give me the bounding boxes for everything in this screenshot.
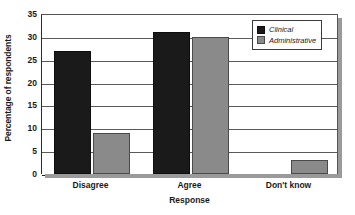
y-axis-tick-label: 20 (28, 78, 37, 88)
plot-frame-shadow-right (338, 18, 342, 178)
y-axis-tick-label: 5 (32, 146, 37, 156)
y-axis-tick-label: 15 (28, 100, 37, 110)
legend-swatch-icon (257, 36, 265, 44)
chart-legend: ClinicalAdministrative (252, 20, 322, 50)
bar (192, 37, 229, 174)
bar-chart-figure: Percentage of respondents 05101520253035… (0, 0, 355, 215)
y-axis-tick-label: 35 (28, 9, 37, 19)
x-axis-tick-label: Don't know (266, 180, 311, 190)
plot-frame-shadow-bottom (45, 174, 342, 178)
x-axis-tick-label: Disagree (73, 180, 109, 190)
bar (153, 32, 190, 174)
y-axis-tick-label: 0 (32, 169, 37, 179)
y-axis-title-text: Percentage of respondents (3, 34, 13, 141)
x-axis-title: Response (41, 195, 338, 205)
legend-item: Clinical (257, 25, 316, 35)
x-axis-tick-labels: DisagreeAgreeDon't know (41, 180, 338, 194)
y-axis-tick-label: 25 (28, 55, 37, 65)
legend-item-label: Clinical (269, 25, 293, 34)
legend-item: Administrative (257, 35, 316, 45)
y-axis-tick-label: 10 (28, 123, 37, 133)
bar (291, 160, 328, 174)
bar (54, 51, 91, 174)
bar (93, 133, 130, 174)
y-axis-tick-label: 30 (28, 32, 37, 42)
y-axis-title: Percentage of respondents (0, 0, 16, 175)
legend-swatch-icon (257, 26, 265, 34)
x-axis-tick-label: Agree (177, 180, 201, 190)
legend-item-label: Administrative (269, 36, 316, 45)
y-axis-tick-labels: 05101520253035 (16, 14, 40, 174)
